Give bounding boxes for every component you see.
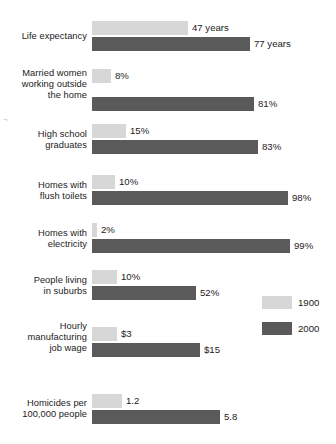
row-label-line: graduates xyxy=(0,140,87,151)
bar-2000 xyxy=(92,239,290,253)
bar-value-2000: 99% xyxy=(290,239,313,253)
row-label: High school graduates xyxy=(0,129,87,151)
row-label: Homes with electricity xyxy=(0,228,87,250)
bar-value-1900: 8% xyxy=(111,69,129,83)
row-label-line: manufacturing xyxy=(0,332,87,343)
row-label: People living in suburbs xyxy=(0,275,87,297)
bar-value-1900: 10% xyxy=(117,270,140,284)
row-label-line: job wage xyxy=(0,343,87,354)
bar-2000 xyxy=(92,286,196,300)
legend-swatch-2000 xyxy=(262,322,292,335)
row-label-line: High school xyxy=(0,129,87,140)
bar-2000 xyxy=(92,140,258,154)
row-label: Married women working outside the home xyxy=(0,68,87,102)
bar-2000 xyxy=(92,191,288,205)
legend-swatch-1900 xyxy=(262,296,292,309)
bar-1900 xyxy=(92,327,117,341)
row-label-line: 100,000 people xyxy=(0,409,87,420)
bar-value-2000: 5.8 xyxy=(220,410,237,424)
row-label-line: Homicides per xyxy=(0,398,87,409)
bar-1900 xyxy=(92,270,117,284)
bar-value-1900: 1.2 xyxy=(122,394,139,408)
bar-2000 xyxy=(92,343,200,357)
bar-1900 xyxy=(92,394,122,408)
bar-2000 xyxy=(92,37,250,51)
row-label: Hourly manufacturing job wage xyxy=(0,321,87,355)
row-label-line: working outside xyxy=(0,79,87,90)
row-label: Homicides per 100,000 people xyxy=(0,398,87,420)
row-label-line: Married women xyxy=(0,68,87,79)
row-label-line: flush toilets xyxy=(0,191,87,202)
bar-1900 xyxy=(92,175,115,189)
bar-value-1900: $3 xyxy=(117,327,132,341)
row-label-line: in suburbs xyxy=(0,286,87,297)
legend-label-2000: 2000 xyxy=(298,322,319,335)
bar-1900 xyxy=(92,124,126,138)
row-label-line: Life expectancy xyxy=(0,31,87,42)
bar-value-2000: 77 years xyxy=(250,37,291,51)
bar-2000 xyxy=(92,97,254,111)
row-label-line: Hourly xyxy=(0,321,87,332)
bar-value-2000: $15 xyxy=(200,343,220,357)
bar-value-1900: 2% xyxy=(97,223,115,237)
bar-value-1900: 47 years xyxy=(188,21,229,35)
bar-value-2000: 81% xyxy=(254,97,277,111)
bar-value-2000: 83% xyxy=(258,140,281,154)
row-label-line: Homes with xyxy=(0,228,87,239)
legend-label-1900: 1900 xyxy=(298,296,319,309)
bar-value-1900: 10% xyxy=(115,175,138,189)
bar-2000 xyxy=(92,410,220,424)
bar-value-1900: 15% xyxy=(126,124,149,138)
bar-value-2000: 52% xyxy=(196,286,219,300)
row-label-line: People living xyxy=(0,275,87,286)
row-label-line: the home xyxy=(0,90,87,101)
comparison-bar-chart: ¬ Life expectancy 47 years 77 years Marr… xyxy=(0,0,336,444)
bar-1900 xyxy=(92,69,111,83)
row-label: Life expectancy xyxy=(0,31,87,42)
scan-artifact: ¬ xyxy=(3,116,9,123)
row-label-line: Homes with xyxy=(0,180,87,191)
bar-value-2000: 98% xyxy=(288,191,311,205)
row-label-line: electricity xyxy=(0,239,87,250)
row-label: Homes with flush toilets xyxy=(0,180,87,202)
bar-1900 xyxy=(92,21,188,35)
